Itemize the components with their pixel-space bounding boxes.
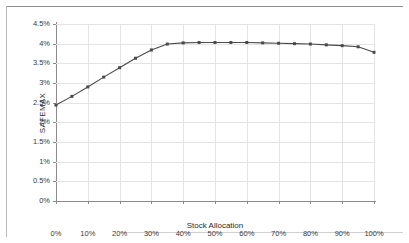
data-point-marker xyxy=(134,57,137,60)
y-axis-tick-label: 4% xyxy=(4,40,50,48)
x-axis-tick-label: 90% xyxy=(335,229,350,238)
x-axis-tick-label: 40% xyxy=(176,229,191,238)
x-axis-tick-label: 10% xyxy=(80,229,95,238)
x-axis-tick-label: 60% xyxy=(239,229,254,238)
y-axis-tick-label: 0.5% xyxy=(4,177,50,185)
x-axis-tick-mark xyxy=(247,201,248,204)
gridline-vertical xyxy=(374,24,375,201)
data-point-marker xyxy=(229,41,232,44)
y-axis-tick-label: 2% xyxy=(4,118,50,126)
plot-area: 0%0.5%1%1.5%2%2.5%3%3.5%4%4.5%0%10%20%30… xyxy=(56,24,374,201)
data-point-marker xyxy=(325,43,328,46)
data-point-marker xyxy=(357,45,360,48)
y-axis-label-container: SAFEMAX xyxy=(8,24,28,201)
x-axis-tick-label: 50% xyxy=(207,229,222,238)
y-axis-tick-label: 4.5% xyxy=(4,20,50,28)
data-point-marker xyxy=(309,43,312,46)
y-axis-tick-label: 2.5% xyxy=(4,99,50,107)
x-axis-tick-mark xyxy=(88,201,89,204)
data-point-marker xyxy=(166,43,169,46)
x-axis-tick-label: 30% xyxy=(144,229,159,238)
data-point-marker xyxy=(70,95,73,98)
data-point-marker xyxy=(277,42,280,45)
x-axis-tick-label: 80% xyxy=(303,229,318,238)
data-point-marker xyxy=(373,51,376,54)
data-point-marker xyxy=(245,41,248,44)
x-axis-tick-label: 0% xyxy=(51,229,62,238)
x-axis-tick-mark xyxy=(279,201,280,204)
data-point-marker xyxy=(102,76,105,79)
x-axis-tick-mark xyxy=(342,201,343,204)
x-axis-tick-mark xyxy=(374,201,375,204)
series-line xyxy=(56,42,374,105)
x-axis-tick-label: 100% xyxy=(364,229,383,238)
y-axis-tick-label: 3% xyxy=(4,79,50,87)
y-axis-tick-label: 0% xyxy=(4,197,50,205)
data-point-marker xyxy=(293,42,296,45)
y-axis-tick-label: 1.5% xyxy=(4,138,50,146)
data-point-marker xyxy=(150,48,153,51)
data-point-marker xyxy=(341,44,344,47)
data-point-marker xyxy=(261,41,264,44)
x-axis-tick-mark xyxy=(183,201,184,204)
data-point-marker xyxy=(182,41,185,44)
data-point-marker xyxy=(118,66,121,69)
data-point-marker xyxy=(55,104,58,107)
series-layer xyxy=(56,24,374,201)
data-point-marker xyxy=(214,41,217,44)
data-point-marker xyxy=(86,85,89,88)
x-axis-tick-label: 70% xyxy=(271,229,286,238)
x-axis-label: Stock Allocation xyxy=(56,221,374,230)
x-axis-tick-mark xyxy=(151,201,152,204)
x-axis-tick-mark xyxy=(120,201,121,204)
page-top-divider xyxy=(6,6,403,7)
y-axis-tick-label: 1% xyxy=(4,158,50,166)
x-axis-tick-label: 20% xyxy=(112,229,127,238)
x-axis-tick-mark xyxy=(215,201,216,204)
data-point-marker xyxy=(198,41,201,44)
x-axis-tick-mark xyxy=(310,201,311,204)
chart-figure: SAFEMAX 0%0.5%1%1.5%2%2.5%3%3.5%4%4.5%0%… xyxy=(0,0,409,243)
y-axis-tick-label: 3.5% xyxy=(4,59,50,67)
page-bottom-divider xyxy=(120,232,403,233)
x-axis-tick-mark xyxy=(56,201,57,204)
